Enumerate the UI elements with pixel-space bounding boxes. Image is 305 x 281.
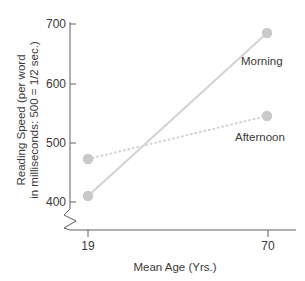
y-tick-label-500: 500 (46, 136, 66, 150)
chart-canvas: 700 600 500 400 19 70 Mean Age (Yrs.) Re… (0, 0, 305, 281)
x-tick-label-19: 19 (81, 239, 95, 253)
data-point-morning-70 (262, 28, 272, 38)
series-label-afternoon: Afternoon (235, 131, 285, 143)
y-tick-label-400: 400 (46, 195, 66, 209)
reading-speed-line-chart: 700 600 500 400 19 70 Mean Age (Yrs.) Re… (0, 0, 305, 281)
x-tick-label-70: 70 (261, 239, 275, 253)
data-point-afternoon-19 (83, 154, 93, 164)
y-tick-label-600: 600 (46, 77, 66, 91)
data-point-morning-19 (83, 191, 93, 201)
x-axis-title: Mean Age (Yrs.) (133, 261, 216, 273)
series-label-morning: Morning (241, 55, 283, 67)
y-tick-label-700: 700 (46, 17, 66, 31)
y-axis-title-line2: in milliseconds: 500 = 1/2 sec.) (28, 41, 40, 199)
y-axis-title-line1: Reading Speed (per word (15, 54, 27, 185)
y-axis-break-symbol (64, 209, 76, 230)
data-point-afternoon-70 (262, 111, 272, 121)
